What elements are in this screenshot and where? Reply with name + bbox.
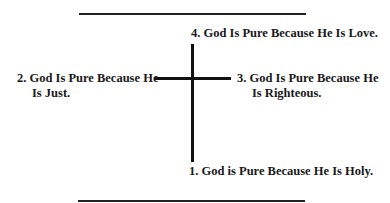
label-top-love: 4. God Is Pure Because He Is Love. (191, 26, 378, 41)
label-right-line1: 3. God Is Pure Because He (237, 71, 378, 85)
bottom-rule (78, 200, 305, 202)
top-rule (79, 13, 306, 15)
label-left-line2: Is Just. (17, 86, 158, 101)
label-right-righteous: 3. God Is Pure Because He Is Righteous. (237, 71, 378, 101)
cross-vertical-bar (191, 44, 194, 162)
label-bottom-holy: 1. God is Pure Because He Is Holy. (189, 164, 373, 179)
label-top-line1: 4. God Is Pure Because He Is Love. (191, 26, 378, 40)
label-right-line2: Is Righteous. (237, 86, 378, 101)
label-left-just: 2. God Is Pure Because He Is Just. (17, 71, 158, 101)
label-left-line1: 2. God Is Pure Because He (17, 71, 158, 85)
cross-horizontal-bar (154, 77, 231, 80)
label-bottom-line1: 1. God is Pure Because He Is Holy. (189, 164, 373, 178)
